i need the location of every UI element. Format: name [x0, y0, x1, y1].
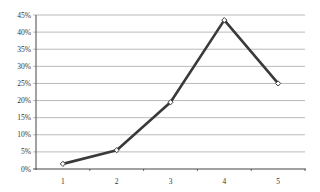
data-series	[60, 18, 280, 167]
line-chart: 0%5%10%15%20%25%30%35%40%45% 12345	[0, 0, 320, 192]
y-tick-label: 10%	[17, 130, 31, 139]
y-tick-label: 25%	[17, 79, 31, 88]
y-tick-label: 5%	[21, 147, 31, 156]
gridlines	[33, 15, 305, 152]
y-tick-label: 15%	[17, 113, 31, 122]
x-tick-label: 3	[169, 177, 173, 186]
y-tick-label: 20%	[17, 96, 31, 105]
x-tick-label: 2	[115, 177, 119, 186]
y-tick-label: 45%	[17, 11, 31, 20]
series-line	[63, 20, 278, 164]
x-tick-label: 1	[61, 177, 65, 186]
y-tick-label: 0%	[21, 165, 31, 174]
y-tick-label: 30%	[17, 62, 31, 71]
y-tick-label: 35%	[17, 45, 31, 54]
x-axis-tick-labels: 12345	[61, 169, 305, 186]
data-point-marker	[60, 161, 65, 166]
y-tick-label: 40%	[17, 28, 31, 37]
x-tick-label: 5	[276, 177, 280, 186]
x-tick-label: 4	[222, 177, 226, 186]
y-axis-tick-labels: 0%5%10%15%20%25%30%35%40%45%	[17, 11, 31, 174]
